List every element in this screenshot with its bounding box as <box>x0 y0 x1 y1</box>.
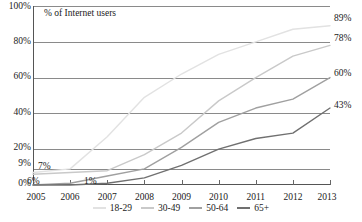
x-tick-2007: 2007 <box>98 192 117 203</box>
legend-label: 50-64 <box>206 203 228 213</box>
legend-item-18-29[interactable]: 18-29 <box>93 203 132 213</box>
x-tick-2012: 2012 <box>283 192 302 203</box>
plot-area: 2005 2006 2007 2008 2009 2010 2011 2012 … <box>33 6 330 185</box>
x-tick-mark-2013 <box>330 180 331 185</box>
series-line-50-64 <box>33 78 330 185</box>
legend-item-50-64[interactable]: 50-64 <box>189 203 228 213</box>
y-tick-60: 60% <box>14 71 31 81</box>
value-label-65plus-end: 43% <box>334 100 351 110</box>
y-tick-100: 100% <box>9 1 31 11</box>
legend-label: 18-29 <box>110 203 132 213</box>
legend-item-30-49[interactable]: 30-49 <box>141 203 180 213</box>
x-tick-2009: 2009 <box>172 192 191 203</box>
y-tick-9: 9% <box>18 158 31 168</box>
legend-label: 65+ <box>254 203 269 213</box>
series-container <box>33 6 330 185</box>
x-tick-2010: 2010 <box>209 192 228 203</box>
legend: 18-29 30-49 50-64 65+ <box>0 203 362 213</box>
y-tick-40: 40% <box>14 107 31 117</box>
legend-swatch-icon <box>189 207 202 209</box>
value-label-50-64-end: 60% <box>334 68 351 78</box>
value-label-30-49-end: 78% <box>334 33 351 43</box>
series-line-18-29 <box>33 26 330 173</box>
x-tick-2006: 2006 <box>61 192 80 203</box>
legend-item-65plus[interactable]: 65+ <box>237 203 269 213</box>
y-tick-20: 20% <box>14 142 31 152</box>
value-label-18-29-start: 7% <box>38 161 51 171</box>
value-label-30-49-start: 6% <box>27 176 40 186</box>
x-tick-2005: 2005 <box>27 192 46 203</box>
legend-label: 30-49 <box>158 203 180 213</box>
legend-swatch-icon <box>141 207 154 209</box>
chart-title: % of Internet users <box>44 8 116 18</box>
value-label-18-29-end: 89% <box>334 13 351 23</box>
x-tick-2008: 2008 <box>135 192 154 203</box>
series-line-65plus <box>33 108 330 185</box>
y-tick-80: 80% <box>14 36 31 46</box>
value-label-50-64-start: 1% <box>84 176 97 186</box>
chart-screenshot: 100% 80% 60% 40% 20% 9% 0% 2005 2006 200… <box>0 0 362 222</box>
series-line-30-49 <box>33 45 330 174</box>
legend-swatch-icon <box>93 207 106 209</box>
legend-swatch-icon <box>237 207 250 209</box>
x-tick-2013: 2013 <box>318 192 337 203</box>
x-tick-2011: 2011 <box>246 192 265 203</box>
